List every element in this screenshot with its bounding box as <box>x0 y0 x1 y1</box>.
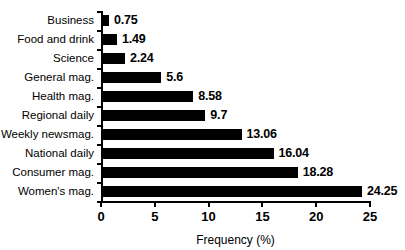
category-label: Science <box>53 49 94 68</box>
bar-row: Science2.24 <box>101 49 370 68</box>
bar <box>101 186 362 197</box>
bar-row: Women's mag.24.25 <box>101 182 370 201</box>
x-axis-tick-label: 10 <box>201 209 215 224</box>
bar <box>101 34 117 45</box>
bar-row: National daily16.04 <box>101 144 370 163</box>
category-label: Women's mag. <box>18 182 94 201</box>
category-label: General mag. <box>24 68 94 87</box>
x-axis-tick-label: 25 <box>363 209 377 224</box>
y-axis-tick <box>97 11 102 13</box>
bar-value-label: 1.49 <box>122 30 146 49</box>
bar-row: Consumer mag.18.28 <box>101 163 370 182</box>
category-label: Business <box>47 11 94 30</box>
bar <box>101 72 161 83</box>
bar-row: Weekly newsmag.13.06 <box>101 125 370 144</box>
bar-value-label: 5.6 <box>166 68 183 87</box>
bar-value-label: 13.06 <box>247 125 277 144</box>
x-axis-title: Frequency (%) <box>101 233 370 247</box>
bar-row: Regional daily9.7 <box>101 106 370 125</box>
bar-value-label: 2.24 <box>130 49 154 68</box>
bar <box>101 129 242 140</box>
category-label: Consumer mag. <box>12 163 94 182</box>
bar-value-label: 18.28 <box>303 163 333 182</box>
y-axis-tick <box>97 30 102 32</box>
y-axis-tick <box>97 144 102 146</box>
bar-row: General mag.5.6 <box>101 68 370 87</box>
bar <box>101 148 274 159</box>
bar <box>101 91 193 102</box>
y-axis-tick <box>97 49 102 51</box>
y-axis-tick <box>97 68 102 70</box>
category-label: National daily <box>25 144 94 163</box>
bar-value-label: 16.04 <box>279 144 309 163</box>
y-axis-tick <box>97 125 102 127</box>
bar <box>101 53 125 64</box>
x-axis-tick <box>100 201 102 207</box>
y-axis-tick <box>97 163 102 165</box>
plot-area: Business0.75Food and drink1.49Science2.2… <box>101 11 370 201</box>
y-axis-tick <box>97 106 102 108</box>
bar-chart-figure: Business0.75Food and drink1.49Science2.2… <box>0 0 405 250</box>
x-axis-tick <box>369 201 371 207</box>
bar <box>101 167 298 178</box>
category-label: Regional daily <box>22 106 94 125</box>
bar <box>101 15 109 26</box>
bar-row: Food and drink1.49 <box>101 30 370 49</box>
x-axis-tick-label: 15 <box>255 209 269 224</box>
x-axis-tick-label: 5 <box>151 209 158 224</box>
category-label: Food and drink <box>17 30 94 49</box>
bar-row: Health mag.8.58 <box>101 87 370 106</box>
y-axis-tick <box>97 182 102 184</box>
category-label: Weekly newsmag. <box>1 125 94 144</box>
bar-row: Business0.75 <box>101 11 370 30</box>
y-axis-tick <box>97 87 102 89</box>
category-label: Health mag. <box>32 87 94 106</box>
bar-value-label: 8.58 <box>198 87 222 106</box>
bar-value-label: 0.75 <box>114 11 138 30</box>
x-axis-tick <box>154 201 156 207</box>
x-axis-tick <box>208 201 210 207</box>
bar <box>101 110 205 121</box>
x-axis-tick-label: 20 <box>309 209 323 224</box>
bar-value-label: 24.25 <box>367 182 397 201</box>
x-axis-line <box>101 201 370 203</box>
bar-value-label: 9.7 <box>210 106 227 125</box>
x-axis-tick-label: 0 <box>97 209 104 224</box>
x-axis-tick <box>315 201 317 207</box>
x-axis-tick <box>261 201 263 207</box>
